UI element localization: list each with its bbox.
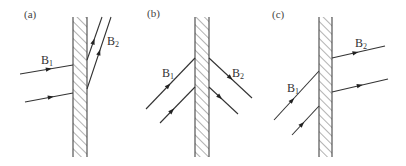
incident-ray-line [160,87,195,123]
hatched-slab [195,17,209,157]
emergent-ray-line [209,87,238,114]
incident-ray [160,87,195,123]
beam-label-b2-text: B [232,66,240,80]
slab-hatch-fill [319,17,332,157]
beam-label-b1: B1 [162,66,174,81]
panel-b: (b)B1B2 [146,7,252,157]
arrow-head-icon [46,67,52,71]
figure-stage: (a)B1B2(b)B1B2(c)B1B2 [0,0,406,166]
beam-label-b2: B2 [232,66,244,81]
beam-label-b1-text: B [162,66,170,80]
beam-label-b2: B2 [107,34,119,49]
panel-label: (a) [24,8,37,21]
beam-label-b1-text: B [41,53,49,67]
hatched-slab [73,17,87,157]
beam-label-b2-subscript: 2 [240,72,244,81]
panel-label: (b) [147,7,160,20]
panel-a: (a)B1B2 [20,8,119,157]
incident-ray [25,93,73,102]
beam-diagram: (a)B1B2(b)B1B2(c)B1B2 [0,0,406,166]
emergent-ray [209,58,252,98]
slab-hatch-fill [73,17,87,157]
beam-label-b1: B1 [287,81,299,96]
beam-label-b2-text: B [355,36,363,50]
panel-c: (c)B1B2 [272,8,388,157]
beam-label-b1: B1 [41,53,53,68]
panel-label: (c) [272,8,285,21]
incident-ray [292,106,319,135]
incident-ray-line [292,106,319,135]
emergent-ray [87,17,111,89]
hatched-slab [319,17,332,157]
arrow-head-icon [90,39,94,45]
emergent-ray [332,79,388,92]
beam-label-b2-subscript: 2 [115,40,119,49]
slab-hatch-fill [195,17,209,157]
incident-ray [146,58,195,109]
arrow-head-icon [47,96,53,100]
emergent-ray [209,87,238,114]
beam-label-b2-subscript: 2 [363,42,367,51]
beam-label-b1-subscript: 1 [49,59,53,68]
arrow-head-icon [96,49,100,55]
beam-label-b1-text: B [287,81,295,95]
beam-label-b1-subscript: 1 [170,72,174,81]
beam-label-b2: B2 [355,36,367,51]
beam-label-b1-subscript: 1 [295,87,299,96]
beam-label-b2-text: B [107,34,115,48]
